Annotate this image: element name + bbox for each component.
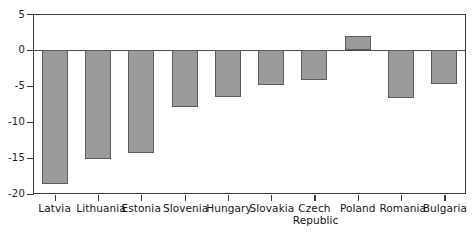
y-tick-label-2: -5 <box>0 81 25 91</box>
y-tick-label-1: 0 <box>0 45 25 55</box>
x-tick-mark <box>358 195 359 201</box>
x-tick-mark <box>314 195 315 201</box>
x-axis-label: Slovakia <box>250 203 293 215</box>
bar <box>431 50 457 84</box>
x-tick-mark <box>55 195 56 201</box>
bar <box>301 50 327 80</box>
bar <box>345 36 371 50</box>
x-axis-label: Hungary <box>206 203 249 215</box>
x-tick-mark <box>98 195 99 201</box>
x-tick-mark <box>185 195 186 201</box>
x-tick-mark <box>271 195 272 201</box>
bar <box>85 50 111 159</box>
bar <box>215 50 241 97</box>
x-axis-label: Slovenia <box>163 203 206 215</box>
y-axis-labels: 5 0 -5 -10 -15 -20 <box>0 0 25 236</box>
x-axis-label: Poland <box>336 203 379 215</box>
x-axis-label: Romania <box>379 203 422 215</box>
bar <box>128 50 154 153</box>
x-axis-label: Latvia <box>33 203 76 215</box>
x-tick-mark <box>444 195 445 201</box>
bar <box>388 50 414 98</box>
y-tick-label-0: 5 <box>0 10 25 20</box>
bar <box>172 50 198 107</box>
x-tick-mark <box>228 195 229 201</box>
x-axis-label: Estonia <box>120 203 163 215</box>
y-tick-label-3: -10 <box>0 117 25 127</box>
bar <box>42 50 68 184</box>
bar-chart: 5 0 -5 -10 -15 -20 LatviaLithuaniaEstoni… <box>0 0 474 236</box>
x-tick-mark <box>141 195 142 201</box>
y-tick-label-4: -15 <box>0 153 25 163</box>
x-tick-mark <box>401 195 402 201</box>
y-tick-label-5: -20 <box>0 189 25 199</box>
x-axis-label: Lithuania <box>76 203 119 215</box>
x-axis-label: Bulgaria <box>423 203 466 215</box>
x-axis-label: Czech Republic <box>293 203 336 226</box>
bar <box>258 50 284 85</box>
